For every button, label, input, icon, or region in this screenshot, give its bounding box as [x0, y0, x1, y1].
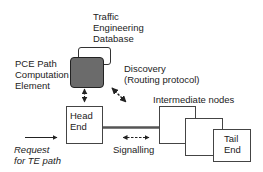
discovery-arrow — [112, 88, 126, 102]
connectors — [0, 0, 263, 172]
